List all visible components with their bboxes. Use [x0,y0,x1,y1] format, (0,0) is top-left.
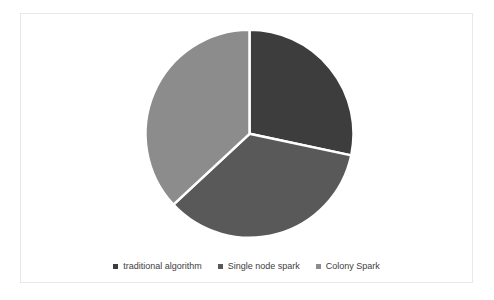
legend-label: traditional algorithm [123,261,202,272]
legend-label: Single node spark [228,261,300,272]
legend-label: Colony Spark [326,261,380,272]
legend-marker-square-icon [113,264,118,269]
legend-item-colony-spark: Colony Spark [316,261,380,272]
legend-item-traditional-algorithm: traditional algorithm [113,261,202,272]
figure-canvas: traditional algorithm Single node spark … [0,0,494,300]
legend: traditional algorithm Single node spark … [21,261,472,272]
pie-chart [21,14,474,284]
pie-chart-frame: traditional algorithm Single node spark … [20,13,473,283]
legend-marker-square-icon [316,264,321,269]
legend-item-single-node-spark: Single node spark [218,261,300,272]
legend-marker-square-icon [218,264,223,269]
